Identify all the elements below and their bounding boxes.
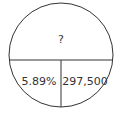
formula-circle [0, 0, 120, 115]
bottom-right-value: 297,500 [62, 76, 108, 88]
top-value: ? [51, 34, 71, 46]
bottom-left-value: 5.89% [18, 76, 60, 88]
